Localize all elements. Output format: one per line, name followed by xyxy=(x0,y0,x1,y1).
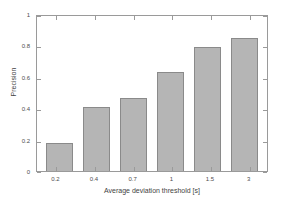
y-tick-mark xyxy=(263,79,267,80)
y-tick-mark xyxy=(37,142,41,143)
y-tick-label: 0.8 xyxy=(22,43,30,49)
y-tick-mark xyxy=(263,16,267,17)
y-tick-label: 0.6 xyxy=(22,75,30,81)
x-tick-mark xyxy=(250,16,251,20)
y-tick-mark xyxy=(263,47,267,48)
x-tick-mark xyxy=(134,167,135,171)
x-tick-mark xyxy=(211,16,212,20)
x-tick-label: 0.7 xyxy=(128,176,136,182)
y-tick-label: 0 xyxy=(27,169,30,175)
x-tick-mark xyxy=(56,16,57,20)
plot-area xyxy=(36,15,268,172)
x-axis: 0.20.40.711.53 xyxy=(36,172,268,186)
x-tick-mark xyxy=(56,167,57,171)
y-tick-label: 0.2 xyxy=(22,138,30,144)
bar xyxy=(231,38,258,171)
bar-chart-figure: 00.20.40.60.81 Precision 0.20.40.711.53 … xyxy=(0,0,283,204)
x-tick-label: 0.2 xyxy=(51,176,59,182)
x-tick-label: 3 xyxy=(247,176,250,182)
x-tick-mark xyxy=(95,16,96,20)
y-axis: 00.20.40.60.81 xyxy=(0,15,36,172)
x-axis-title: Average deviation threshold [s] xyxy=(36,187,268,195)
bar xyxy=(83,107,110,171)
bar xyxy=(194,47,221,171)
x-tick-mark xyxy=(250,167,251,171)
bar xyxy=(157,72,184,171)
x-tick-mark xyxy=(134,16,135,20)
x-tick-mark xyxy=(172,167,173,171)
bar xyxy=(46,143,73,171)
x-tick-label: 1.5 xyxy=(206,176,214,182)
y-tick-label: 0.4 xyxy=(22,106,30,112)
y-tick-mark xyxy=(263,142,267,143)
x-tick-mark xyxy=(95,167,96,171)
y-tick-label: 1 xyxy=(27,12,30,18)
x-tick-mark xyxy=(211,167,212,171)
x-tick-label: 1 xyxy=(170,176,173,182)
x-tick-label: 0.4 xyxy=(90,176,98,182)
y-tick-mark xyxy=(37,16,41,17)
bar xyxy=(120,98,147,171)
bar-series xyxy=(37,16,267,171)
x-tick-mark xyxy=(172,16,173,20)
y-tick-mark xyxy=(37,110,41,111)
y-tick-mark xyxy=(37,79,41,80)
y-tick-mark xyxy=(263,110,267,111)
y-axis-title: Precision xyxy=(10,42,18,122)
y-tick-mark xyxy=(37,47,41,48)
